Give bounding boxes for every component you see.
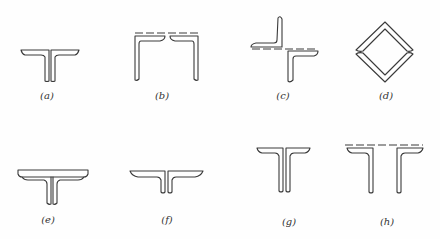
section-a-shape xyxy=(21,50,79,82)
label-h: (h) xyxy=(380,216,394,227)
label-d: (d) xyxy=(379,90,393,101)
label-f: (f) xyxy=(161,214,173,225)
section-d-shape xyxy=(356,22,413,82)
label-c: (c) xyxy=(276,90,289,101)
section-e-shape xyxy=(18,170,88,204)
section-c-shape xyxy=(251,17,318,82)
section-g-shape xyxy=(257,148,310,192)
label-g: (g) xyxy=(282,216,296,227)
label-a: (a) xyxy=(40,90,54,101)
section-f-shape xyxy=(130,171,203,193)
figure-canvas: (a) (b) (c) (d) (e) (f) (g) (h) xyxy=(0,0,440,239)
section-h-shape xyxy=(345,145,423,193)
label-b: (b) xyxy=(155,90,169,101)
label-e: (e) xyxy=(41,214,55,225)
section-b-shape xyxy=(135,33,198,80)
figure-drawing xyxy=(0,0,440,239)
